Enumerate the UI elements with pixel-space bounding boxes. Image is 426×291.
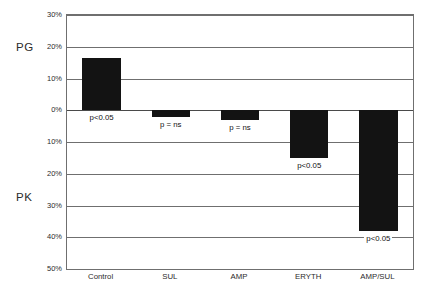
bar bbox=[82, 58, 120, 110]
bar-annotation: p<0.05 bbox=[88, 113, 116, 123]
y-tick-label: 20% bbox=[28, 168, 62, 177]
y-axis-tick-labels: 30%20%10%0%10%20%30%40%50% bbox=[26, 0, 62, 291]
x-axis-tick-labels: ControlSULAMPERYTHAMP/SUL bbox=[66, 272, 414, 288]
x-tick-label: SUL bbox=[162, 272, 177, 281]
plot-area: p<0.05p = nsp = nsp<0.05p<0.05 bbox=[66, 14, 414, 270]
x-tick-label: ERYTH bbox=[295, 272, 321, 281]
bar bbox=[290, 110, 328, 158]
y-tick-label: 10% bbox=[28, 73, 62, 82]
y-tick-label: 20% bbox=[28, 41, 62, 50]
gridline bbox=[67, 15, 413, 16]
bar-annotation: p = ns bbox=[227, 123, 252, 133]
x-tick-label: AMP/SUL bbox=[360, 272, 394, 281]
gridline bbox=[67, 237, 413, 238]
gridline bbox=[67, 269, 413, 270]
bar-annotation: p<0.05 bbox=[364, 234, 392, 244]
bar bbox=[152, 110, 190, 116]
bar bbox=[359, 110, 397, 231]
x-tick-label: Control bbox=[88, 272, 113, 281]
bar-annotation: p = ns bbox=[158, 120, 183, 130]
x-tick-label: AMP bbox=[231, 272, 248, 281]
gridline bbox=[67, 47, 413, 48]
y-tick-label: 0% bbox=[28, 105, 62, 114]
bar-chart: PG PK 30%20%10%0%10%20%30%40%50% p<0.05p… bbox=[0, 0, 426, 291]
y-tick-label: 30% bbox=[28, 200, 62, 209]
y-tick-label: 50% bbox=[28, 264, 62, 273]
y-tick-label: 40% bbox=[28, 232, 62, 241]
y-tick-label: 30% bbox=[28, 10, 62, 19]
y-tick-label: 10% bbox=[28, 137, 62, 146]
bar-annotation: p<0.05 bbox=[295, 161, 323, 171]
bar bbox=[221, 110, 259, 120]
